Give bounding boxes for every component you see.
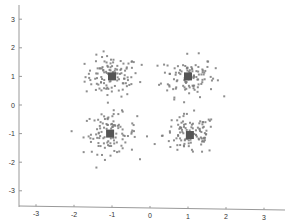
y-tick-label: -3 <box>9 187 15 194</box>
y-tick-label: 0 <box>11 102 15 109</box>
x-tick-label: -3 <box>33 210 39 217</box>
x-tick-label: 0 <box>148 212 152 219</box>
centroid-marker <box>186 131 194 139</box>
axes: -3-2-101233210-1-2-3 <box>9 5 285 221</box>
y-tick-label: 2 <box>11 44 15 51</box>
x-tick-label: 2 <box>224 213 228 220</box>
data-points <box>71 50 226 168</box>
x-tick-label: -1 <box>109 211 115 218</box>
y-tick-label: 1 <box>11 73 15 80</box>
x-tick-label: 1 <box>186 213 190 220</box>
centroid-markers <box>106 72 194 139</box>
centroid-marker <box>108 72 116 80</box>
centroid-marker <box>106 130 114 138</box>
y-tick-label: -1 <box>9 130 15 137</box>
y-tick-label: -2 <box>9 159 15 166</box>
x-tick-label: -2 <box>71 211 77 218</box>
scatter-plot: -3-2-101233210-1-2-3 <box>0 0 290 224</box>
x-axis <box>19 206 285 210</box>
x-tick-label: 3 <box>262 214 266 221</box>
centroid-marker <box>184 72 192 80</box>
y-tick-label: 3 <box>11 16 15 23</box>
